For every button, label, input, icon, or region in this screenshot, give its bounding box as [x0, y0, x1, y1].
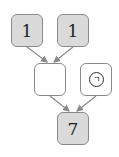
edge-mid-left-to-bottom — [50, 96, 69, 111]
node-top-left-label: 1 — [22, 21, 33, 41]
node-top-right-label: 1 — [68, 21, 79, 41]
edge-mid-right-to-bottom — [77, 96, 96, 111]
node-bottom-label: 7 — [68, 119, 79, 139]
node-top-right: 1 — [57, 14, 89, 47]
node-mid-left-blank — [34, 63, 66, 96]
node-mid-right-label: ㄱ — [93, 76, 100, 84]
node-top-left: 1 — [11, 14, 43, 47]
node-mid-right: ㄱ — [80, 63, 112, 96]
node-bottom: 7 — [57, 112, 89, 145]
edge-top-left-to-mid — [27, 47, 47, 62]
edge-top-right-to-mid — [54, 47, 73, 62]
circled-marker: ㄱ — [89, 72, 104, 87]
